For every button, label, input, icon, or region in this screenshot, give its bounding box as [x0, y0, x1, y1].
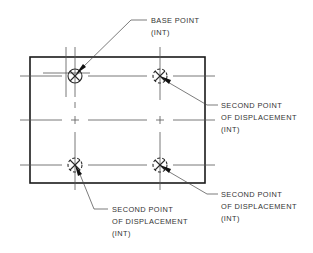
- arrowhead-icon: [160, 76, 171, 84]
- second-point-leader-bottom-right: [160, 165, 218, 194]
- label-line: SECOND POINT: [112, 205, 173, 214]
- label-line: OF DISPLACEMENT: [221, 113, 297, 122]
- label-line: (INT): [112, 229, 131, 238]
- arrowhead-icon: [160, 165, 171, 173]
- label-base-point: BASE POINT (INT): [151, 16, 199, 37]
- pick-crosshair: [43, 47, 90, 97]
- label-line: OF DISPLACEMENT: [221, 202, 297, 211]
- vertical-centerlines: [75, 47, 160, 190]
- label-second-point-bottom-left: SECOND POINT OF DISPLACEMENT (INT): [112, 205, 188, 238]
- label-line: (INT): [221, 214, 240, 223]
- arrowhead-icon: [75, 165, 82, 176]
- second-point-leader-bottom-left: [75, 165, 108, 209]
- label-line: OF DISPLACEMENT: [112, 217, 188, 226]
- label-line: SECOND POINT: [221, 101, 282, 110]
- displacement-diagram: BASE POINT (INT) SECOND POINT OF DISPLAC…: [0, 0, 313, 253]
- label-line: (INT): [221, 125, 240, 134]
- label-second-point-bottom-right: SECOND POINT OF DISPLACEMENT (INT): [221, 190, 297, 223]
- horizontal-centerlines: [20, 76, 215, 165]
- label-line: (INT): [151, 28, 170, 37]
- base-point-leader: [76, 20, 147, 74]
- label-second-point-top-right: SECOND POINT OF DISPLACEMENT (INT): [221, 101, 297, 134]
- label-line: SECOND POINT: [221, 190, 282, 199]
- label-line: BASE POINT: [151, 16, 199, 25]
- second-point-leader-top-right: [160, 76, 218, 105]
